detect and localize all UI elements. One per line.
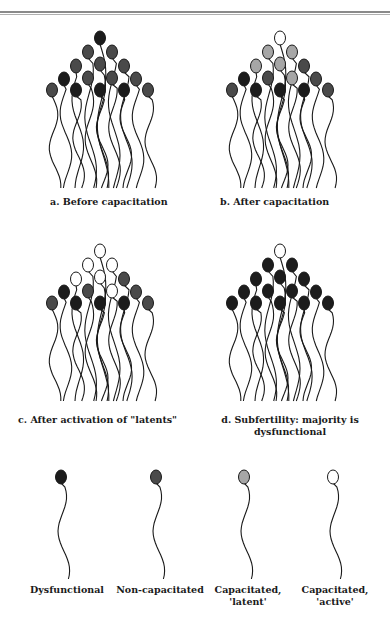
- panel-d-label-line2: dysfunctional: [215, 426, 365, 438]
- sperm-non-capacitated-icon: [143, 296, 157, 401]
- legend-sperm-icons: [56, 470, 342, 579]
- sperm-active-icon: [71, 272, 84, 401]
- sperm-dysfunctional-icon: [239, 72, 252, 188]
- sperm-dysfunctional-icon: [59, 285, 72, 401]
- sperm-active-icon: [107, 258, 121, 401]
- sperm-non-capacitated-icon: [131, 72, 144, 188]
- sperm-non-capacitated-icon: [107, 45, 121, 188]
- sperm-dysfunctional-icon: [239, 285, 252, 401]
- sperm-non-capacitated-icon: [47, 83, 61, 188]
- legend-label-active-line2: 'active': [295, 596, 375, 608]
- panel-a-cluster: [47, 31, 157, 188]
- sperm-dysfunctional-icon: [251, 272, 264, 401]
- legend-label-non-capacitated: Non-capacitated: [110, 584, 210, 596]
- panel-c-label: c. After activation of "latents": [18, 414, 178, 426]
- legend-label-active-line1: Capacitated,: [295, 584, 375, 596]
- panel-a-label: a. Before capacitation: [50, 196, 170, 208]
- sperm-diagram: [0, 0, 390, 629]
- legend-label-latent-line1: Capacitated,: [208, 584, 288, 596]
- sperm-latent-icon: [287, 45, 301, 188]
- sperm-non-capacitated-icon: [47, 296, 61, 401]
- panel-d-cluster: [227, 244, 337, 401]
- panel-c-cluster: [47, 244, 157, 401]
- sperm-active-icon: [328, 470, 342, 579]
- panel-b-cluster: [227, 31, 337, 188]
- panel-b-label: b. After capacitation: [220, 196, 350, 208]
- panel-d-label-line1: d. Subfertility: majority is: [215, 414, 365, 426]
- sperm-non-capacitated-icon: [131, 285, 144, 401]
- sperm-non-capacitated-icon: [71, 59, 84, 188]
- sperm-non-capacitated-icon: [151, 470, 165, 579]
- sperm-dysfunctional-icon: [311, 285, 324, 401]
- sperm-dysfunctional-icon: [59, 72, 72, 188]
- legend-label-latent-line2: 'latent': [208, 596, 288, 608]
- sperm-non-capacitated-icon: [143, 83, 157, 188]
- legend-label-dysfunctional: Dysfunctional: [22, 584, 112, 596]
- sperm-non-capacitated-icon: [311, 72, 324, 188]
- sperm-dysfunctional-icon: [323, 296, 337, 401]
- sperm-dysfunctional-icon: [56, 470, 70, 579]
- sperm-latent-icon: [251, 59, 264, 188]
- sperm-non-capacitated-icon: [227, 83, 241, 188]
- sperm-latent-icon: [239, 470, 253, 579]
- sperm-non-capacitated-icon: [323, 83, 337, 188]
- sperm-dysfunctional-icon: [227, 296, 241, 401]
- sperm-dysfunctional-icon: [287, 258, 301, 401]
